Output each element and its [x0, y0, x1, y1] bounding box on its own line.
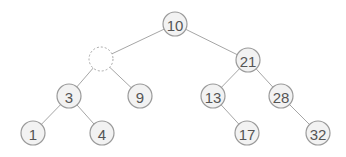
edge-n28-n32 [289, 104, 309, 124]
node-label: 1 [29, 126, 37, 143]
tree-node-21: 21 [236, 48, 260, 72]
node-label: 17 [239, 126, 256, 143]
tree-node-28: 28 [269, 84, 293, 108]
node-label: 4 [98, 126, 106, 143]
tree-nodes: 1021391328141732 [21, 12, 330, 145]
edge-nEmpty-n9 [110, 67, 132, 87]
tree-node-9: 9 [128, 84, 152, 108]
edge-n3-n1 [41, 105, 60, 125]
tree-edges [41, 29, 309, 124]
tree-node-4: 4 [90, 121, 114, 145]
edge-n21-n13 [221, 69, 239, 88]
tree-node-17: 17 [235, 121, 259, 145]
node-label: 28 [273, 89, 290, 106]
node-label: 13 [205, 89, 222, 106]
edge-n3-n4 [77, 105, 94, 124]
tree-node-32: 32 [306, 121, 330, 145]
tree-node-1: 1 [21, 121, 45, 145]
node-label: 10 [167, 17, 184, 34]
tree-node-empty [89, 47, 113, 71]
edge-n21-n28 [256, 69, 273, 87]
node-label: 32 [310, 126, 327, 143]
node-label: 21 [240, 53, 257, 70]
node-label: 3 [65, 89, 73, 106]
node-label: 9 [136, 89, 144, 106]
edge-n13-n17 [221, 105, 239, 124]
edge-n10-nEmpty [112, 29, 164, 54]
binary-tree-diagram: 1021391328141732 [0, 0, 346, 157]
tree-node-3: 3 [57, 84, 81, 108]
edge-n10-n21 [186, 29, 237, 54]
tree-node-10: 10 [163, 12, 187, 36]
tree-svg: 1021391328141732 [0, 0, 346, 157]
edge-nEmpty-n3 [77, 68, 93, 87]
tree-node-13: 13 [201, 84, 225, 108]
empty-node-circle [89, 47, 113, 71]
